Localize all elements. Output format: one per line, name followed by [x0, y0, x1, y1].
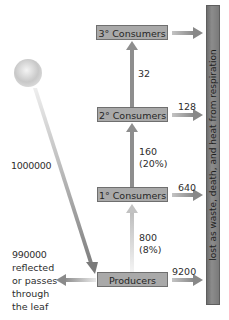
- sun-icon: [14, 59, 42, 87]
- transfer-value-1-2: 160: [139, 146, 157, 157]
- loss-bar-text: lost as waste, death, and heat from resp…: [208, 49, 218, 260]
- box-2-consumers: 2° Consumers: [97, 107, 168, 122]
- reflected-value: 990000: [12, 249, 46, 260]
- sunlight-arrow: [33, 88, 98, 274]
- loss-arrow-3: [172, 27, 203, 39]
- transfer-value-p-1: 800: [139, 232, 157, 243]
- box-1-consumers: 1° Consumers: [97, 187, 168, 202]
- reflected-arrow: [56, 274, 96, 286]
- transfer-arrow-1-2: [126, 123, 138, 187]
- loss-value-1: 640: [178, 182, 196, 193]
- loss-value-producers: 9200: [172, 266, 196, 277]
- transfer-arrow-2-3: [126, 41, 138, 107]
- box-3-consumers: 3° Consumers: [96, 25, 168, 40]
- transfer-percent-1-2: (20%): [139, 158, 168, 169]
- sunlight-value: 1000000: [11, 160, 51, 171]
- transfer-arrow-producers-1: [126, 204, 138, 272]
- loss-value-2: 128: [178, 101, 196, 112]
- transfer-value-2-3: 32: [138, 68, 150, 79]
- loss-bar: lost as waste, death, and heat from resp…: [206, 5, 220, 305]
- reflected-text: reflected or passes through the leaf: [12, 261, 60, 313]
- transfer-percent-p-1: (8%): [139, 244, 161, 255]
- box-producers: Producers: [97, 272, 168, 287]
